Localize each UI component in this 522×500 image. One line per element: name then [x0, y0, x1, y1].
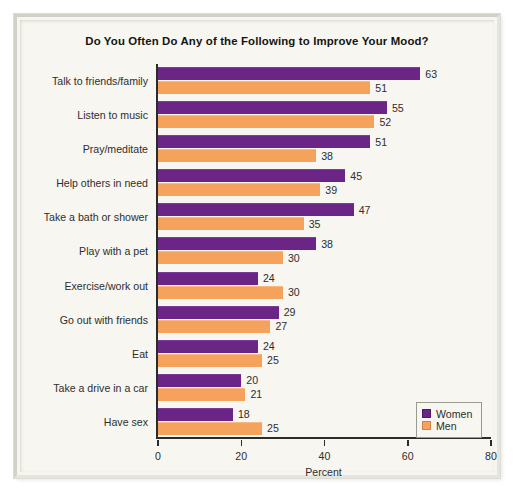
- bar-track: 52: [156, 115, 491, 128]
- legend-swatch-icon: [422, 421, 431, 430]
- bar-track: 29: [156, 306, 491, 319]
- chart-title: Do You Often Do Any of the Following to …: [20, 35, 494, 47]
- bar-group: Talk to friends/family6351: [156, 64, 491, 98]
- bar-group: Eat2425: [156, 337, 491, 371]
- category-label: Exercise/work out: [64, 280, 148, 292]
- x-tick-label: 20: [235, 450, 247, 462]
- x-tick-label: 0: [155, 450, 161, 462]
- bar-women[interactable]: [158, 340, 258, 353]
- bar-value-label: 51: [370, 136, 387, 148]
- bar-value-label: 52: [374, 116, 391, 128]
- legend-item-men[interactable]: Men: [422, 421, 472, 432]
- bar-women[interactable]: [158, 203, 354, 216]
- bar-men[interactable]: [158, 217, 304, 230]
- bar-women[interactable]: [158, 237, 316, 250]
- bar-value-label: 24: [258, 340, 275, 352]
- category-label: Help others in need: [56, 177, 148, 189]
- category-label: Talk to friends/family: [52, 75, 148, 87]
- bar-men[interactable]: [158, 183, 320, 196]
- x-tick-label: 40: [319, 450, 331, 462]
- bar-women[interactable]: [158, 374, 241, 387]
- category-label: Take a drive in a car: [53, 382, 148, 394]
- bar-value-label: 45: [345, 170, 362, 182]
- x-axis-title: Percent: [156, 466, 491, 478]
- legend-item-women[interactable]: Women: [422, 409, 472, 420]
- bar-women[interactable]: [158, 306, 279, 319]
- bar-value-label: 63: [420, 68, 437, 80]
- bar-value-label: 24: [258, 272, 275, 284]
- bar-track: 30: [156, 251, 491, 264]
- bar-track: 35: [156, 217, 491, 230]
- bar-pair: 5552: [156, 101, 491, 129]
- bar-value-label: 29: [279, 306, 296, 318]
- bar-track: 39: [156, 183, 491, 196]
- x-tick-mark: [407, 440, 409, 446]
- figure-frame: Do You Often Do Any of the Following to …: [14, 14, 500, 478]
- bar-pair: 2927: [156, 306, 491, 334]
- bar-women[interactable]: [158, 272, 258, 285]
- bar-value-label: 38: [316, 238, 333, 250]
- bar-value-label: 27: [270, 320, 287, 332]
- bar-men[interactable]: [158, 286, 283, 299]
- bar-value-label: 20: [241, 374, 258, 386]
- bar-value-label: 55: [387, 102, 404, 114]
- chart-legend: WomenMen: [416, 402, 482, 438]
- bar-value-label: 18: [233, 408, 250, 420]
- bar-men[interactable]: [158, 251, 283, 264]
- x-tick-mark: [490, 440, 492, 446]
- bar-value-label: 25: [262, 354, 279, 366]
- bar-women[interactable]: [158, 135, 370, 148]
- bar-men[interactable]: [158, 354, 262, 367]
- x-tick-mark: [324, 440, 326, 446]
- bar-value-label: 30: [283, 252, 300, 264]
- bar-group: Listen to music5552: [156, 98, 491, 132]
- plot-area: Talk to friends/family6351Listen to musi…: [156, 64, 491, 439]
- bar-pair: 2425: [156, 340, 491, 368]
- bar-pair: 4735: [156, 203, 491, 231]
- bar-pair: 6351: [156, 67, 491, 95]
- category-label: Pray/meditate: [83, 143, 148, 155]
- bar-men[interactable]: [158, 422, 262, 435]
- bar-group: Pray/meditate5138: [156, 132, 491, 166]
- bar-women[interactable]: [158, 101, 387, 114]
- x-tick-mark: [241, 440, 243, 446]
- bar-women[interactable]: [158, 169, 345, 182]
- figure-inner-panel: Do You Often Do Any of the Following to …: [20, 20, 494, 472]
- bar-value-label: 30: [283, 286, 300, 298]
- bar-track: 63: [156, 67, 491, 80]
- bar-value-label: 38: [316, 150, 333, 162]
- category-label: Have sex: [104, 416, 148, 428]
- bar-track: 25: [156, 354, 491, 367]
- bar-group: Play with a pet3830: [156, 234, 491, 268]
- x-tick-mark: [157, 440, 159, 446]
- bar-track: 51: [156, 81, 491, 94]
- bar-men[interactable]: [158, 320, 270, 333]
- bar-value-label: 25: [262, 422, 279, 434]
- bar-pair: 2430: [156, 272, 491, 300]
- bar-track: 24: [156, 340, 491, 353]
- bar-track: 47: [156, 203, 491, 216]
- bar-group: Help others in need4539: [156, 166, 491, 200]
- legend-swatch-icon: [422, 409, 431, 418]
- bar-value-label: 39: [320, 184, 337, 196]
- bar-track: 38: [156, 149, 491, 162]
- category-label: Go out with friends: [60, 314, 148, 326]
- bar-women[interactable]: [158, 67, 420, 80]
- bar-men[interactable]: [158, 149, 316, 162]
- bar-group: Take a bath or shower4735: [156, 200, 491, 234]
- bar-men[interactable]: [158, 115, 374, 128]
- bar-men[interactable]: [158, 388, 245, 401]
- bar-track: 27: [156, 320, 491, 333]
- bar-group: Go out with friends2927: [156, 303, 491, 337]
- bar-track: 38: [156, 237, 491, 250]
- bar-pair: 4539: [156, 169, 491, 197]
- bar-track: 55: [156, 101, 491, 114]
- bar-track: 24: [156, 272, 491, 285]
- bar-value-label: 21: [245, 388, 262, 400]
- bar-men[interactable]: [158, 81, 370, 94]
- bar-track: 51: [156, 135, 491, 148]
- legend-label: Men: [436, 421, 457, 432]
- bar-women[interactable]: [158, 408, 233, 421]
- bar-value-label: 47: [354, 204, 371, 216]
- category-label: Listen to music: [77, 109, 148, 121]
